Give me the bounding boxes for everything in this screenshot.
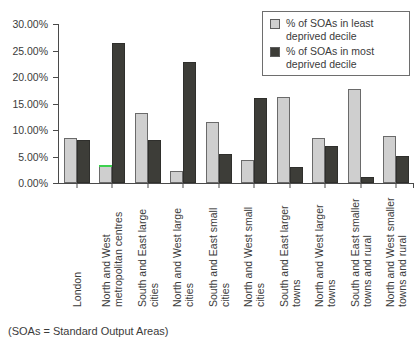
bar-group — [237, 24, 273, 183]
x-tick-mark — [254, 183, 255, 188]
y-tick-mark — [53, 51, 58, 52]
x-axis-label: North and West smaller towns and rural — [384, 192, 408, 307]
x-label-cell: North and West larger towns — [308, 192, 344, 310]
bar — [383, 136, 396, 183]
bar — [277, 97, 290, 183]
y-tick-label: 20.00% — [12, 72, 48, 83]
bar — [348, 89, 361, 183]
x-tick-mark — [360, 183, 361, 188]
bar — [312, 138, 325, 183]
x-tick-mark — [183, 183, 184, 188]
x-tick-mark — [396, 183, 397, 188]
x-tick-mark — [289, 183, 290, 188]
bar — [206, 122, 219, 183]
bar — [290, 167, 303, 183]
bar-group — [130, 24, 166, 183]
x-tick-mark — [147, 183, 148, 188]
x-axis-label: London — [71, 192, 83, 307]
bar — [99, 165, 112, 183]
plot-area: 0.00%5.00%10.00%15.00%20.00%25.00%30.00% — [0, 24, 420, 194]
bar — [170, 171, 183, 183]
x-tick-mark — [325, 183, 326, 188]
x-axis-end-tick — [413, 183, 414, 188]
x-label-cell: South and East small cities — [201, 192, 237, 310]
x-label-cell: South and East smaller towns and rural — [343, 192, 379, 310]
x-label-cell: South and East larger towns — [272, 192, 308, 310]
x-label-cell: London — [59, 192, 95, 310]
bar — [361, 177, 374, 183]
y-tick-label: 30.00% — [12, 19, 48, 30]
x-label-cell: North and West large cities — [166, 192, 202, 310]
bar — [219, 154, 232, 183]
bar-group — [379, 24, 415, 183]
bar-group — [201, 24, 237, 183]
y-tick-mark — [53, 77, 58, 78]
x-axis-label: South and East small cities — [207, 192, 231, 307]
x-tick-mark — [218, 183, 219, 188]
bar — [325, 146, 338, 183]
y-tick-mark — [53, 157, 58, 158]
bar-group — [343, 24, 379, 183]
x-tick-mark — [76, 183, 77, 188]
bar — [254, 98, 267, 183]
bar — [112, 43, 125, 183]
x-label-cell: North and West small cities — [237, 192, 273, 310]
y-tick-mark — [53, 183, 58, 184]
y-tick-label: 10.00% — [12, 125, 48, 136]
x-axis-label: South and East smaller towns and rural — [349, 192, 373, 307]
bar — [148, 140, 161, 183]
bar-group — [59, 24, 95, 183]
x-axis-label: North and West small cities — [242, 192, 266, 307]
chart-footnote: (SOAs = Standard Output Areas) — [8, 325, 169, 338]
bar — [183, 62, 196, 183]
x-label-cell: North and West metropolitan centres — [95, 192, 131, 310]
bars-container — [59, 24, 414, 183]
bar — [241, 160, 254, 183]
y-tick-label: 0.00% — [18, 178, 48, 189]
x-axis-label: South and East large cities — [136, 192, 160, 307]
x-axis-label: North and West metropolitan centres — [100, 192, 124, 307]
bar-highlight-line — [99, 165, 112, 167]
x-axis-label: South and East larger towns — [278, 192, 302, 307]
bar-chart-figure: % of SOAs in least deprived decile % of … — [0, 0, 420, 348]
bar-group — [166, 24, 202, 183]
bar — [77, 140, 90, 183]
x-axis-label: North and West larger towns — [313, 192, 337, 307]
y-tick-label: 5.00% — [18, 151, 48, 162]
bar-group — [308, 24, 344, 183]
y-tick-label: 15.00% — [12, 98, 48, 109]
y-tick-mark — [53, 104, 58, 105]
x-axis-category-labels: LondonNorth and West metropolitan centre… — [59, 192, 414, 310]
y-axis: 0.00%5.00%10.00%15.00%20.00%25.00%30.00% — [0, 24, 52, 184]
x-tick-mark — [112, 183, 113, 188]
x-axis-label: North and West large cities — [171, 192, 195, 307]
bar — [396, 156, 409, 183]
bar-group — [95, 24, 131, 183]
bar — [135, 113, 148, 183]
bar — [64, 138, 77, 183]
y-tick-mark — [53, 130, 58, 131]
y-tick-label: 25.00% — [12, 45, 48, 56]
x-label-cell: North and West smaller towns and rural — [379, 192, 415, 310]
x-label-cell: South and East large cities — [130, 192, 166, 310]
bar-group — [272, 24, 308, 183]
y-tick-mark — [53, 24, 58, 25]
